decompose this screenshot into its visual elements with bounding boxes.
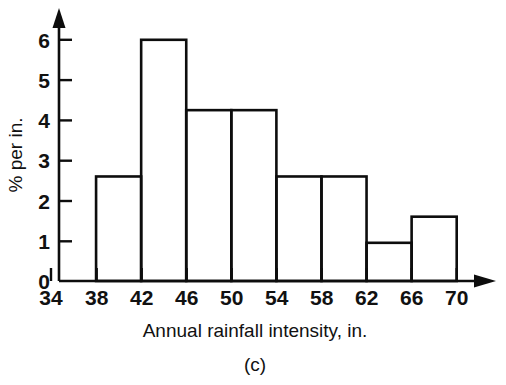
- histogram-bar-62-66: [367, 243, 412, 281]
- histogram-bar-66-70: [412, 217, 457, 281]
- x-tick-labels: 34 38 42 46 50 54 58 62 66 70: [39, 286, 468, 309]
- x-tick-label-38: 38: [85, 286, 109, 309]
- histogram-bar-42-46: [141, 40, 186, 281]
- histogram-bar-46-50: [186, 110, 231, 281]
- x-tick-label-46: 46: [175, 286, 198, 309]
- histogram-bar-58-62: [321, 176, 366, 281]
- bars-group: [96, 40, 457, 281]
- x-tick-label-70: 70: [445, 286, 468, 309]
- histogram-bar-50-54: [231, 110, 276, 281]
- y-axis-arrow-icon: [53, 8, 66, 28]
- x-tick-label-42: 42: [130, 286, 153, 309]
- x-tick-label-66: 66: [400, 286, 423, 309]
- x-axis: [51, 268, 496, 288]
- figure-caption: (c): [244, 354, 266, 375]
- figure-histogram-annual-rainfall: 6 5 4 3 2 1 0 34 38 42 46 50: [0, 0, 506, 385]
- y-axis: [53, 8, 73, 281]
- y-tick-label-6: 6: [38, 29, 50, 52]
- y-tick-labels: 6 5 4 3 2 1 0: [38, 29, 50, 294]
- x-tick-label-34: 34: [39, 286, 63, 309]
- x-axis-arrow-icon: [474, 275, 496, 288]
- x-axis-title: Annual rainfall intensity, in.: [143, 320, 368, 341]
- y-tick-label-3: 3: [38, 149, 50, 172]
- x-tick-label-54: 54: [265, 286, 289, 309]
- x-tick-label-50: 50: [220, 286, 243, 309]
- y-tick-label-2: 2: [38, 190, 50, 213]
- y-axis-title: % per in.: [5, 118, 26, 193]
- histogram-bar-54-58: [276, 176, 321, 281]
- y-tick-label-1: 1: [38, 230, 50, 253]
- histogram-bar-38-42: [96, 176, 141, 281]
- histogram-plot: 6 5 4 3 2 1 0 34 38 42 46 50: [0, 0, 506, 385]
- y-tick-label-4: 4: [38, 109, 50, 132]
- y-tick-label-5: 5: [38, 69, 50, 92]
- x-tick-label-58: 58: [310, 286, 334, 309]
- x-tick-label-62: 62: [355, 286, 378, 309]
